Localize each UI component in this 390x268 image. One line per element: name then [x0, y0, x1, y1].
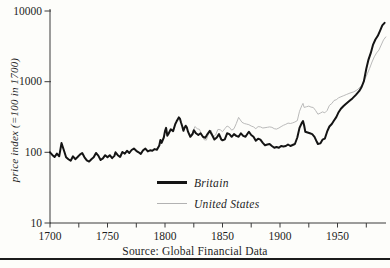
- legend-label-united-states: United States: [194, 198, 260, 210]
- legend-item-united-states: United States: [157, 197, 260, 210]
- plot-area: 10100100010000170017501800185019001950: [0, 0, 390, 268]
- x-tick-label: 1950: [326, 230, 349, 242]
- united-states-line: [188, 37, 386, 140]
- x-tick-label: 1800: [154, 230, 177, 242]
- source-note: Source: Global Financial Data: [55, 245, 335, 257]
- legend-label-britain: Britain: [194, 177, 229, 189]
- y-tick-label: 10: [31, 217, 43, 229]
- legend: Britain United States: [157, 176, 260, 210]
- price-index-chart: 10100100010000170017501800185019001950 p…: [0, 0, 390, 268]
- britain-line-swatch: [157, 181, 187, 184]
- x-tick-label: 1700: [39, 230, 62, 242]
- x-tick-label: 1900: [269, 230, 292, 242]
- y-axis-label: price index (=100 in 1700): [8, 48, 24, 193]
- y-tick-label: 100: [25, 146, 43, 158]
- y-tick-label: 10000: [13, 5, 42, 17]
- britain-line: [50, 23, 385, 162]
- x-tick-label: 1850: [211, 230, 234, 242]
- united-states-line-swatch: [157, 203, 187, 204]
- x-tick-label: 1750: [96, 230, 119, 242]
- bottom-rule: [0, 258, 390, 260]
- chart-page: 10100100010000170017501800185019001950 p…: [0, 0, 390, 268]
- legend-item-britain: Britain: [157, 176, 260, 189]
